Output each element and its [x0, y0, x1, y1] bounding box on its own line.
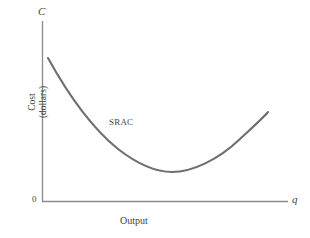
x-axis-title: Output [120, 216, 148, 226]
y-axis-variable-label: C [38, 6, 45, 17]
x-axis-variable-label: q [292, 194, 298, 205]
y-axis-title: Cost (dollars) [28, 72, 48, 132]
y-axis-title-line-1: Cost [28, 72, 38, 132]
cost-curve-figure: C Cost (dollars) 0 SRAC Output q [0, 0, 310, 238]
y-axis-title-line-2: (dollars) [39, 72, 49, 132]
origin-label: 0 [32, 195, 37, 204]
srac-curve-label: SRAC [109, 118, 133, 127]
srac-curve [48, 58, 268, 172]
